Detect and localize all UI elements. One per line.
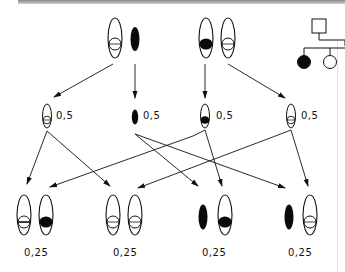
pedigree-unaffected-child <box>324 56 337 69</box>
offspring-4 <box>285 195 318 235</box>
gamete-1-probability: 0,5 <box>56 110 73 121</box>
chromosome-open-with-open-allele <box>108 18 122 58</box>
parent-2 <box>199 18 235 58</box>
parent-to-gamete-arrows <box>54 64 285 98</box>
offspring-2-probability: 0,25 <box>113 247 137 258</box>
offspring-2 <box>106 195 142 235</box>
pedigree-chart <box>298 19 345 69</box>
offspring-3-probability: 0,25 <box>202 247 226 258</box>
chromosome-solid <box>131 27 140 51</box>
offspring-3 <box>199 195 233 235</box>
gamete-1 <box>43 104 52 128</box>
parent-1 <box>108 18 140 58</box>
chromosome-open-with-filled-allele <box>199 18 213 58</box>
gamete-4-probability: 0,5 <box>301 110 318 121</box>
gamete-3-probability: 0,5 <box>216 110 233 121</box>
gamete-4 <box>287 104 296 128</box>
pedigree-affected-daughter <box>298 56 311 69</box>
chromosome-open-with-open-allele <box>221 18 235 58</box>
offspring-1 <box>17 195 53 235</box>
offspring-4-probability: 0,25 <box>288 247 312 258</box>
gamete-2-probability: 0,5 <box>143 110 160 121</box>
diagram-canvas <box>0 0 345 272</box>
offspring-1-probability: 0,25 <box>24 247 48 258</box>
pedigree-father-square <box>312 19 326 33</box>
gamete-2 <box>132 110 138 125</box>
gamete-to-offspring-arrows <box>27 130 308 188</box>
inheritance-diagram: 0,5 0,5 0,5 0,5 0,25 0,25 0,25 0,25 <box>0 0 345 272</box>
gamete-3 <box>201 104 210 128</box>
